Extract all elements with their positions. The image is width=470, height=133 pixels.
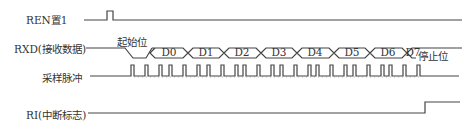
data-bit-d6: D6 bbox=[376, 46, 400, 58]
data-bit-d3: D3 bbox=[267, 46, 291, 58]
data-bit-d5: D5 bbox=[340, 46, 364, 58]
rxd-start-waveform bbox=[86, 48, 152, 58]
ren-waveform bbox=[84, 11, 462, 20]
data-bit-d0: D0 bbox=[157, 46, 181, 58]
data-bit-d7: D7 bbox=[401, 46, 425, 58]
data-bit-d2: D2 bbox=[230, 46, 254, 58]
sample-pulse-waveform bbox=[90, 65, 459, 76]
data-bit-d4: D4 bbox=[303, 46, 327, 58]
ri-waveform bbox=[88, 102, 460, 113]
timing-waveforms bbox=[0, 0, 470, 133]
data-bit-d1: D1 bbox=[194, 46, 218, 58]
